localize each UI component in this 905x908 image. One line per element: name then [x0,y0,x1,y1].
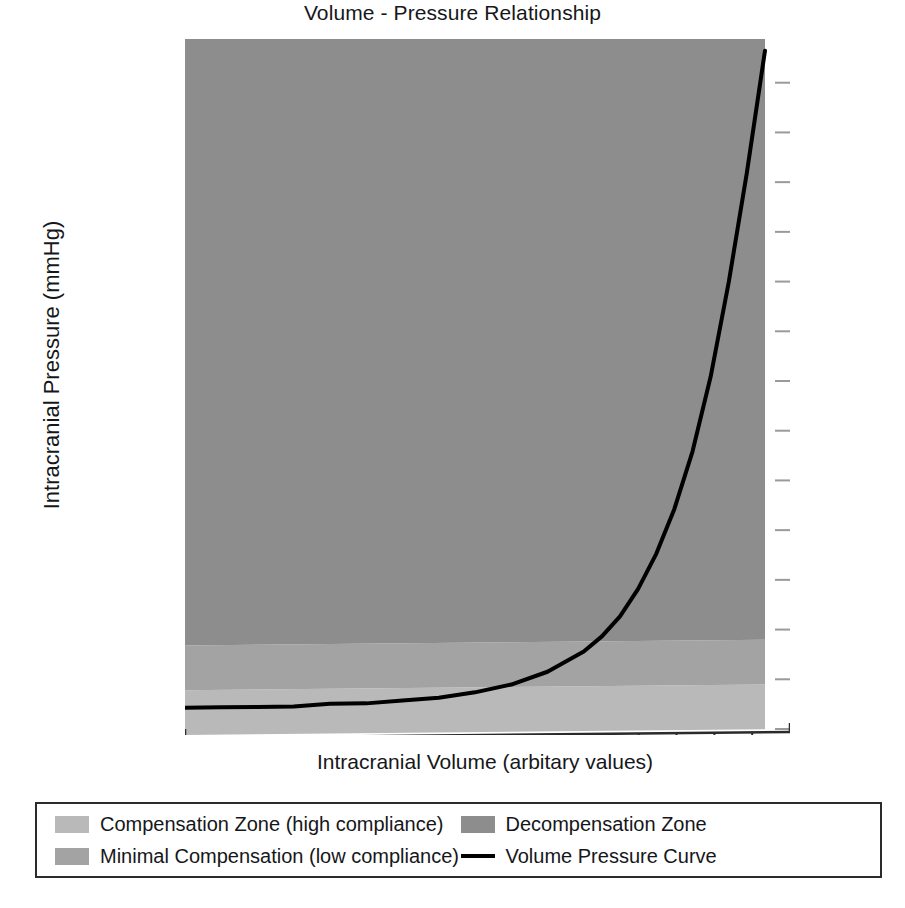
legend-color-swatch [55,848,89,865]
legend-item[interactable]: Decompensation Zone [461,813,867,836]
legend-color-swatch [55,816,89,833]
x-axis-title: Intracranial Volume (arbitary values) [185,750,785,774]
legend-item[interactable]: Volume Pressure Curve [461,845,867,868]
page-edge [0,895,905,908]
y-axis-tick-labels: 020406080100120140160180200220240260280 [0,0,180,908]
plot-area [185,39,790,735]
legend-label: Compensation Zone (high compliance) [100,813,444,836]
legend-label: Volume Pressure Curve [506,845,717,868]
zone-band-3 [185,39,765,646]
plot-svg [185,39,790,735]
legend-line-marker [461,854,495,858]
legend-item[interactable]: Minimal Compensation (low compliance) [55,845,461,868]
legend-label: Decompensation Zone [506,813,707,836]
zone-band-2 [185,640,765,690]
legend: Compensation Zone (high compliance)Decom… [35,802,882,878]
chart-figure: Volume - Pressure Relationship Intracran… [0,0,905,908]
legend-label: Minimal Compensation (low compliance) [100,845,459,868]
legend-item[interactable]: Compensation Zone (high compliance) [55,813,461,836]
legend-color-swatch [461,816,495,833]
